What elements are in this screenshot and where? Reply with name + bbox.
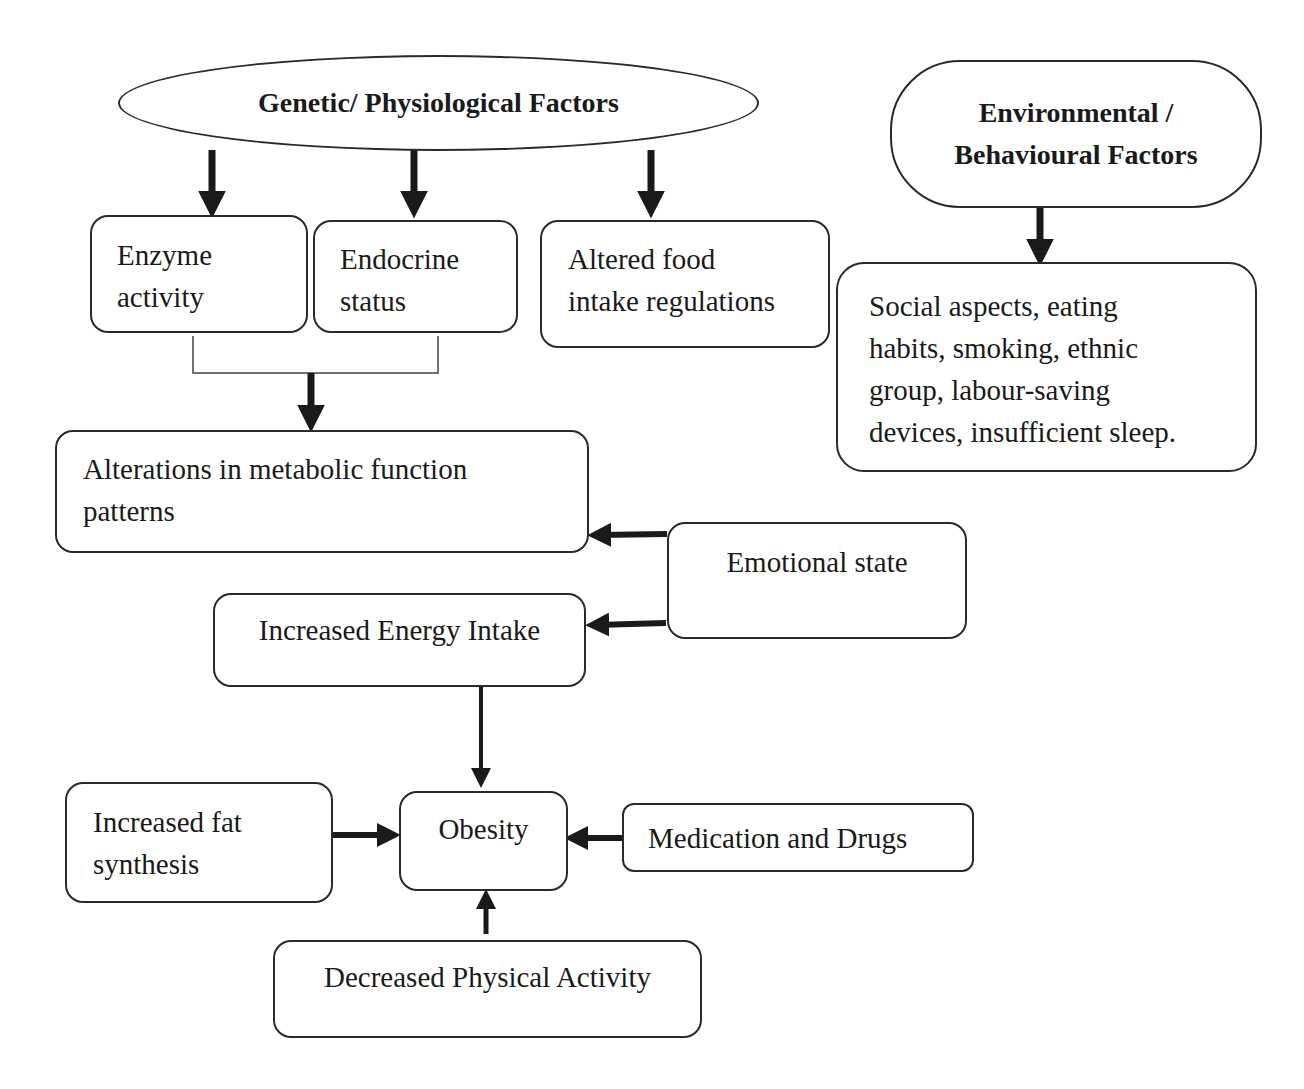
node-label: Emotional state xyxy=(669,541,965,583)
node-label: Medication and Drugs xyxy=(648,817,907,859)
node-alterations-metabolic-function: Alterations in metabolic function patter… xyxy=(55,430,589,553)
node-obesity: Obesity xyxy=(399,791,568,891)
node-social-aspects: Social aspects, eating habits, smoking, … xyxy=(836,262,1257,472)
node-label: Increased Energy Intake xyxy=(215,609,584,651)
node-label: Obesity xyxy=(401,808,566,850)
node-label: Increased fat synthesis xyxy=(93,801,242,885)
node-environmental-behavioural-factors: Environmental / Behavioural Factors xyxy=(890,60,1262,208)
node-endocrine-status: Endocrine status xyxy=(313,220,518,333)
node-label: Altered food intake regulations xyxy=(568,238,775,322)
bracket-enzyme-endocrine xyxy=(193,336,438,373)
node-label: Decreased Physical Activity xyxy=(275,956,700,998)
node-label: Genetic/ Physiological Factors xyxy=(120,82,757,124)
node-decreased-physical-activity: Decreased Physical Activity xyxy=(273,940,702,1038)
node-altered-food-intake: Altered food intake regulations xyxy=(540,220,830,348)
node-genetic-physiological-factors: Genetic/ Physiological Factors xyxy=(118,55,759,151)
arrow-emotional-to-energy-intake xyxy=(596,623,666,625)
node-increased-energy-intake: Increased Energy Intake xyxy=(213,593,586,687)
node-label: Environmental / Behavioural Factors xyxy=(892,92,1260,176)
node-medication-and-drugs: Medication and Drugs xyxy=(622,803,974,872)
node-emotional-state: Emotional state xyxy=(667,522,967,639)
node-label: Enzyme activity xyxy=(117,234,212,318)
node-label: Alterations in metabolic function patter… xyxy=(83,448,467,532)
node-increased-fat-synthesis: Increased fat synthesis xyxy=(65,782,333,903)
figure-caption-truncated xyxy=(0,1080,1304,1089)
node-enzyme-activity: Enzyme activity xyxy=(90,215,308,333)
node-label: Social aspects, eating habits, smoking, … xyxy=(869,285,1176,453)
arrow-emotional-to-alterations xyxy=(598,534,667,535)
node-label: Endocrine status xyxy=(340,238,459,322)
